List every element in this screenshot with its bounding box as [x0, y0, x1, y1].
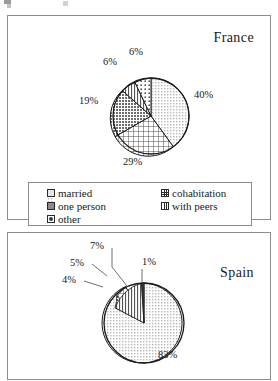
legend-item-with-peers: with peers [161, 200, 226, 212]
france-label-cohabitation: 29% [123, 156, 142, 167]
spain-slice-cohabitation [141, 283, 144, 323]
france-label-other: 6% [129, 46, 143, 57]
france-slice-married [151, 78, 189, 147]
legend-swatch-one-person-icon [47, 202, 55, 210]
legend-item-cohabitation: cohabitation [161, 187, 226, 199]
artifact-mark-left-lower [7, 4, 11, 8]
legend-item-other: other [47, 213, 106, 225]
spain-pie-chart [8, 233, 272, 381]
france-slice-with-peers [122, 82, 151, 116]
spain-label-one-person: 7% [90, 240, 104, 251]
france-label-married: 40% [194, 89, 213, 100]
spain-label-with-peers: 5% [70, 257, 84, 268]
legend-column-right: cohabitation with peers [161, 187, 226, 213]
france-chart-panel: France [7, 15, 271, 220]
legend-swatch-with-peers-icon [161, 202, 169, 210]
spain-slice-other [117, 287, 144, 323]
leader-line-one-person [112, 248, 127, 286]
france-pie-outline [113, 78, 189, 154]
spain-label-married: 83% [158, 349, 177, 360]
legend-label-married: married [58, 188, 92, 199]
legend-label-other: other [58, 214, 81, 225]
legend-swatch-married-icon [47, 189, 55, 197]
legend-item-married: married [47, 187, 106, 199]
france-label-with-peers: 6% [103, 56, 117, 67]
france-slice-cohabitation [115, 116, 173, 156]
france-label-one-person: 19% [79, 95, 98, 106]
legend-swatch-cohabitation-icon [161, 189, 169, 197]
legend-label-with-peers: with peers [172, 201, 218, 212]
artifact-mark-center [63, 1, 68, 6]
legend-swatch-other-icon [47, 215, 55, 223]
leader-line-other [84, 281, 103, 287]
spain-slice-with-peers [115, 296, 144, 323]
france-chart-title: France [214, 30, 255, 46]
france-slice-one-person [110, 90, 151, 136]
legend-column-left: married one person other [47, 187, 106, 226]
legend-item-one-person: one person [47, 200, 106, 212]
spain-chart-title: Spain [220, 265, 254, 281]
leader-line-with-peers [92, 264, 107, 276]
spain-label-cohabitation: 1% [142, 256, 156, 267]
legend-label-one-person: one person [58, 201, 106, 212]
france-slice-other [135, 78, 151, 116]
cropped-text-artifact [0, 0, 278, 12]
spain-chart-panel: Spain 83% 1% 7% 5% 4% [7, 232, 271, 380]
spain-slice-one-person [115, 283, 144, 323]
spain-label-other: 4% [62, 274, 76, 285]
chart-legend: married one person other [28, 182, 252, 226]
legend-label-cohabitation: cohabitation [172, 188, 226, 199]
